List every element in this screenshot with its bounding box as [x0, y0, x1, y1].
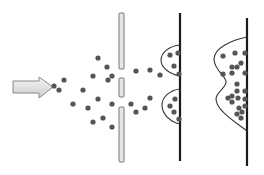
particle-dot: [171, 63, 176, 68]
particle-dot: [239, 109, 244, 114]
particle-dot: [229, 99, 234, 104]
particle-dot: [95, 96, 100, 101]
particle-dot: [220, 53, 225, 58]
particle-dot: [147, 67, 152, 72]
particle-dot: [242, 103, 247, 108]
particle-dot: [70, 101, 75, 106]
barrier-segment-0: [119, 13, 124, 69]
particle-dot: [176, 116, 181, 121]
particle-dot: [128, 101, 133, 106]
particle-dot: [234, 111, 239, 116]
particle-dot: [172, 96, 177, 101]
particle-dot: [90, 73, 95, 78]
particle-dot: [80, 87, 85, 92]
barrier-segment-2: [119, 107, 124, 162]
particle-dot: [167, 52, 172, 57]
particle-dot: [229, 70, 234, 75]
diagram-canvas: [0, 0, 264, 175]
particle-dot: [225, 95, 230, 100]
double-slit-diagram: [0, 0, 264, 175]
particle-dot: [105, 77, 110, 82]
particle-dot: [220, 71, 225, 76]
particle-dot: [100, 115, 105, 120]
particle-dot: [133, 68, 138, 73]
particle-dot: [242, 96, 247, 101]
particle-dot: [238, 60, 243, 65]
particle-dot: [176, 71, 181, 76]
particle-dot: [95, 55, 100, 60]
particle-dot: [175, 50, 180, 55]
particle-dot: [133, 109, 138, 114]
particle-dot: [171, 109, 176, 114]
interference-upper-peak: [161, 45, 180, 76]
particle-dot: [232, 50, 237, 55]
particles: [51, 50, 247, 129]
particle-dot: [234, 88, 239, 93]
particle-dot: [234, 64, 239, 69]
particle-dot: [85, 105, 90, 110]
particle-dot: [238, 115, 243, 120]
particle-dot: [235, 95, 240, 100]
particle-dot: [229, 64, 234, 69]
particle-dot: [167, 103, 172, 108]
source-arrow-icon: [13, 77, 53, 98]
particle-dot: [109, 73, 114, 78]
particle-dot: [61, 77, 66, 82]
barrier-segment-1: [119, 78, 124, 97]
particle-dot: [142, 105, 147, 110]
particle-dot: [147, 95, 152, 100]
particle-dot: [242, 50, 247, 55]
particle-dot: [242, 70, 247, 75]
particle-dot: [234, 81, 239, 86]
particle-dot: [242, 88, 247, 93]
particle-dot: [157, 72, 162, 77]
arrow-shape: [13, 77, 53, 98]
particle-dot: [109, 101, 114, 106]
particle-dot: [51, 83, 56, 88]
particle-dot: [90, 119, 95, 124]
particle-dot: [109, 124, 114, 129]
slit-barrier: [119, 13, 124, 162]
particle-dot: [56, 87, 61, 92]
particle-dot: [104, 64, 109, 69]
